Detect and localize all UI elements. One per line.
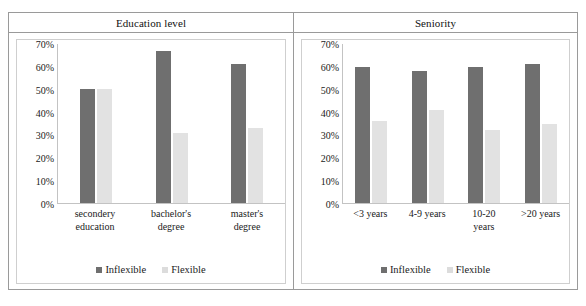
- plot-seniority: [342, 44, 569, 204]
- legend-item-flexible[interactable]: Flexible: [447, 264, 490, 275]
- bar-inflexible: [525, 64, 540, 203]
- bar-inflexible: [412, 71, 427, 203]
- chart-card-seniority: 70%60%50%40%30%20%10%0% <3 years4-9 year…: [301, 39, 570, 284]
- y-tick-label: 0%: [41, 199, 54, 210]
- plot-area-education-level: 70%60%50%40%30%20%10%0%: [17, 44, 285, 204]
- legend-label: Flexible: [456, 264, 490, 275]
- panel-title-seniority: Seniority: [294, 13, 577, 33]
- y-tick-label: 30%: [321, 130, 339, 141]
- legend-item-flexible[interactable]: Flexible: [162, 264, 205, 275]
- y-tick-label: 10%: [36, 176, 54, 187]
- y-axis-education-level: 70%60%50%40%30%20%10%0%: [17, 44, 57, 204]
- y-tick-label: 60%: [36, 61, 54, 72]
- bar-flexible: [248, 128, 263, 203]
- legend-swatch-icon: [162, 267, 168, 273]
- bar-flexible: [173, 133, 188, 203]
- legend-swatch-icon: [447, 267, 453, 273]
- x-axis-label: seconderyeducation: [57, 208, 133, 233]
- panel-education-level: Education level 70%60%50%40%30%20%10%0% …: [9, 13, 294, 289]
- bar-group: [400, 44, 457, 203]
- x-axis-label: <3 years: [342, 208, 399, 233]
- bar-group: [456, 44, 513, 203]
- y-tick-label: 40%: [36, 107, 54, 118]
- plot-education-level: [57, 44, 285, 204]
- bar-inflexible: [468, 67, 483, 203]
- y-tick-label: 30%: [36, 130, 54, 141]
- x-axis-label: master'sdegree: [209, 208, 285, 233]
- y-tick-label: 50%: [321, 84, 339, 95]
- y-tick-label: 50%: [36, 84, 54, 95]
- y-tick-label: 40%: [321, 107, 339, 118]
- y-tick-label: 20%: [36, 153, 54, 164]
- legend-education-level: InflexibleFlexible: [17, 264, 285, 275]
- bar-flexible: [542, 124, 557, 204]
- y-tick-label: 70%: [36, 39, 54, 50]
- legend-swatch-icon: [96, 267, 102, 273]
- legend-label: Flexible: [171, 264, 205, 275]
- x-axis-labels-education-level: seconderyeducationbachelor'sdegreemaster…: [57, 208, 285, 233]
- y-tick-label: 10%: [321, 176, 339, 187]
- chart-figure: Education level 70%60%50%40%30%20%10%0% …: [8, 12, 578, 290]
- legend-item-inflexible[interactable]: Inflexible: [96, 264, 146, 275]
- bar-inflexible: [355, 67, 370, 203]
- x-axis-label: 10-20years: [456, 208, 513, 233]
- legend-label: Inflexible: [105, 264, 146, 275]
- y-tick-label: 20%: [321, 153, 339, 164]
- y-tick-label: 60%: [321, 61, 339, 72]
- y-tick-label: 0%: [326, 199, 339, 210]
- x-axis-label: >20 years: [512, 208, 569, 233]
- bar-group: [58, 44, 134, 203]
- bar-group: [134, 44, 210, 203]
- bar-groups-education-level: [58, 44, 285, 203]
- x-axis-labels-seniority: <3 years4-9 years10-20years>20 years: [342, 208, 569, 233]
- y-tick-label: 70%: [321, 39, 339, 50]
- chart-card-education-level: 70%60%50%40%30%20%10%0% seconderyeducati…: [16, 39, 286, 284]
- legend-label: Inflexible: [390, 264, 431, 275]
- legend-item-inflexible[interactable]: Inflexible: [381, 264, 431, 275]
- x-axis-label: bachelor'sdegree: [133, 208, 209, 233]
- y-axis-seniority: 70%60%50%40%30%20%10%0%: [302, 44, 342, 204]
- bar-group: [343, 44, 400, 203]
- legend-seniority: InflexibleFlexible: [302, 264, 569, 275]
- bar-inflexible: [80, 89, 95, 203]
- plot-area-seniority: 70%60%50%40%30%20%10%0%: [302, 44, 569, 204]
- bar-flexible: [97, 89, 112, 203]
- bar-group: [209, 44, 285, 203]
- bar-groups-seniority: [343, 44, 569, 203]
- x-axis-label: 4-9 years: [399, 208, 456, 233]
- bar-group: [513, 44, 570, 203]
- bar-flexible: [485, 130, 500, 203]
- bar-inflexible: [156, 51, 171, 203]
- panel-title-education-level: Education level: [9, 13, 293, 33]
- panel-seniority: Seniority 70%60%50%40%30%20%10%0% <3 yea…: [294, 13, 577, 289]
- bar-flexible: [372, 121, 387, 203]
- legend-swatch-icon: [381, 267, 387, 273]
- bar-inflexible: [231, 64, 246, 203]
- bar-flexible: [429, 110, 444, 203]
